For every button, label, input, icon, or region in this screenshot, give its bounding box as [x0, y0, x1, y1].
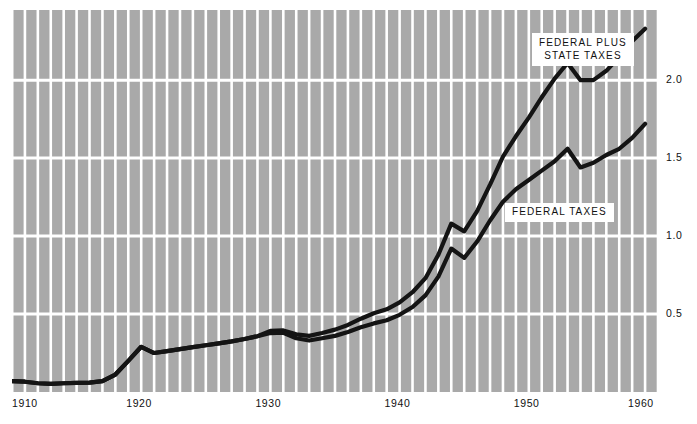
plot-area — [12, 10, 658, 392]
y-tick-label: 1.5 — [666, 151, 682, 163]
y-tick-label: 0.5 — [666, 307, 682, 319]
y-tick-label: 1.0 — [666, 229, 682, 241]
x-tick-label: 1930 — [255, 397, 281, 409]
x-tick-label: 1910 — [12, 397, 38, 409]
x-tick-label: 1940 — [385, 397, 411, 409]
legend-federal-taxes: FEDERAL TAXES — [505, 203, 614, 222]
series-lines — [12, 10, 658, 392]
x-tick-label: 1960 — [628, 397, 654, 409]
legend-total-line2: STATE TAXES — [539, 50, 627, 63]
series-line — [12, 124, 645, 384]
legend-federal-plus-state-taxes: FEDERAL PLUS STATE TAXES — [532, 33, 634, 66]
y-tick-label: 2.0 — [666, 73, 682, 85]
legend-total-line1: FEDERAL PLUS — [539, 37, 627, 50]
x-tick-label: 1950 — [514, 397, 540, 409]
legend-federal-line1: FEDERAL TAXES — [512, 206, 607, 219]
tax-burden-chart: FEDERAL PLUS STATE TAXES FEDERAL TAXES 0… — [0, 0, 697, 424]
x-tick-label: 1920 — [126, 397, 152, 409]
